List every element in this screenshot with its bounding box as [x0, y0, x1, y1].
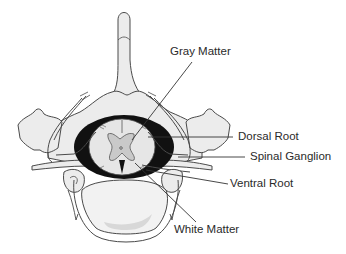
label-spinal-ganglion: Spinal Ganglion	[250, 151, 331, 163]
label-dorsal-root: Dorsal Root	[238, 131, 299, 143]
label-ventral-root: Ventral Root	[230, 178, 293, 190]
label-white-matter: White Matter	[174, 224, 239, 236]
right-transverse-process	[186, 109, 230, 153]
spinous-process	[112, 13, 142, 97]
vertebra-illustration	[0, 0, 346, 254]
spinal-cord-diagram: Gray Matter Dorsal Root Spinal Ganglion …	[0, 0, 346, 254]
label-gray-matter: Gray Matter	[170, 46, 231, 58]
